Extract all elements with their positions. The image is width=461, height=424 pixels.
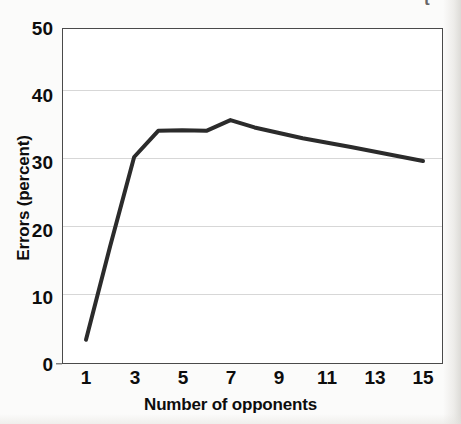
x-axis-title: Number of opponents xyxy=(0,395,461,415)
y-tick-mark-0 xyxy=(56,363,62,364)
gridline-30 xyxy=(63,158,442,159)
plot-area xyxy=(62,28,443,364)
gridline-10 xyxy=(63,294,442,295)
gridline-20 xyxy=(63,226,442,227)
x-tick-label-5: 5 xyxy=(178,368,189,387)
x-tick-label-15: 15 xyxy=(412,368,433,387)
x-tick-label-9: 9 xyxy=(274,368,285,387)
gridline-40 xyxy=(63,90,442,91)
chart-figure: t 50 40 30 20 10 0 1 3 5 7 9 11 13 15 Nu… xyxy=(0,0,461,424)
y-tick-label-50: 50 xyxy=(0,19,53,38)
x-tick-label-13: 13 xyxy=(364,368,385,387)
x-tick-label-7: 7 xyxy=(226,368,237,387)
x-tick-label-11: 11 xyxy=(317,368,337,387)
x-tick-label-1: 1 xyxy=(81,368,92,387)
y-axis-title: Errors (percent) xyxy=(14,38,34,358)
cropped-text-fragment: t xyxy=(424,0,430,7)
x-tick-label-3: 3 xyxy=(130,368,141,387)
